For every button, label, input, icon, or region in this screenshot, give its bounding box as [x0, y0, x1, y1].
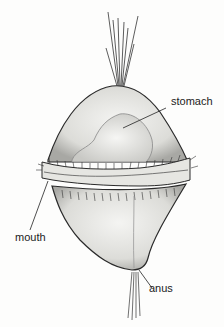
hyposphere [52, 184, 186, 270]
mouth-leader [30, 181, 48, 230]
apical-tuft [106, 12, 138, 86]
label-mouth: mouth [15, 232, 46, 243]
telotroch [128, 272, 140, 320]
larva-drawing [0, 0, 224, 327]
label-stomach: stomach [171, 96, 213, 107]
diagram: stomach mouth anus [0, 0, 224, 327]
label-anus: anus [149, 283, 173, 294]
